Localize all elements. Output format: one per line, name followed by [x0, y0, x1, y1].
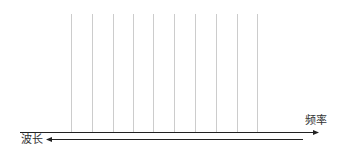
- wavelength-label: 波长: [21, 134, 43, 146]
- frequency-label: 频率: [305, 115, 327, 127]
- spectrum-diagram: [0, 0, 341, 155]
- wavelength-arrowhead-icon: [46, 137, 52, 142]
- frequency-arrowhead-icon: [313, 130, 319, 135]
- vertical-lines: [72, 14, 258, 132]
